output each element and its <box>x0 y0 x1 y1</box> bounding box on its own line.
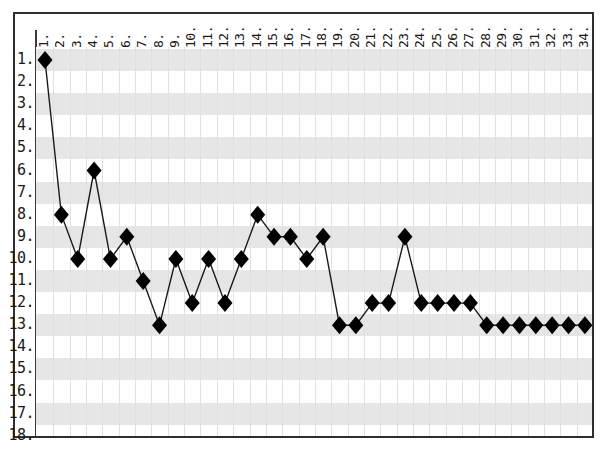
x-tick-label: 8. <box>152 33 165 48</box>
data-point-marker <box>332 316 347 334</box>
data-point-marker <box>381 294 396 312</box>
x-tick-label: 2. <box>53 33 66 48</box>
x-tick-label: 17. <box>299 26 312 48</box>
y-tick-label: 18. <box>0 428 34 443</box>
data-point-marker <box>54 206 69 224</box>
gridline <box>413 47 414 436</box>
x-tick-label: 12. <box>217 26 230 48</box>
gridline <box>86 47 87 436</box>
gridline <box>184 47 185 436</box>
y-tick-label: 10. <box>0 251 34 266</box>
gridline <box>462 47 463 436</box>
data-point-marker <box>545 316 560 334</box>
y-tick-label: 6. <box>0 163 34 178</box>
y-tick-label: 12. <box>0 295 34 310</box>
data-point-marker <box>528 316 543 334</box>
y-tick-label: 16. <box>0 384 34 399</box>
data-point-marker <box>250 206 265 224</box>
background-band <box>36 270 592 292</box>
y-tick-label: 7. <box>0 185 34 200</box>
gridline <box>233 47 234 436</box>
data-point-marker <box>217 294 232 312</box>
gridline <box>380 47 381 436</box>
x-tick-label: 3. <box>70 33 83 48</box>
y-tick-label: 5. <box>0 140 34 155</box>
gridline <box>168 47 169 436</box>
gridline <box>364 47 365 436</box>
data-point-marker <box>168 250 183 268</box>
y-tick-label: 9. <box>0 229 34 244</box>
x-tick-label: 22. <box>381 26 394 48</box>
background-band <box>36 137 592 159</box>
data-point-marker <box>136 272 151 290</box>
data-point-marker <box>152 316 167 334</box>
gridline <box>348 47 349 436</box>
data-point-marker <box>577 316 592 334</box>
x-tick-label: 16. <box>282 26 295 48</box>
data-point-marker <box>479 316 494 334</box>
gridline <box>250 47 251 436</box>
x-tick-label: 15. <box>266 26 279 48</box>
y-tick-label: 15. <box>0 361 34 376</box>
data-point-marker <box>397 228 412 246</box>
x-tick-label: 29. <box>495 26 508 48</box>
y-tick-label: 13. <box>0 317 34 332</box>
data-point-marker <box>496 316 511 334</box>
y-tick-label: 14. <box>0 339 34 354</box>
x-tick-label: 1. <box>37 33 50 48</box>
gridline <box>511 47 512 436</box>
x-tick-label: 25. <box>430 26 443 48</box>
gridline <box>446 47 447 436</box>
data-point-marker <box>70 250 85 268</box>
x-tick-label: 23. <box>397 26 410 48</box>
gridline <box>119 47 120 436</box>
gridline <box>429 47 430 436</box>
background-band <box>36 314 592 336</box>
gridline <box>544 47 545 436</box>
data-point-marker <box>430 294 445 312</box>
x-tick-label: 33. <box>561 26 574 48</box>
data-point-marker <box>201 250 216 268</box>
data-point-marker <box>267 228 282 246</box>
data-point-marker <box>185 294 200 312</box>
gridline <box>282 47 283 436</box>
gridline <box>331 47 332 436</box>
y-tick-label: 8. <box>0 207 34 222</box>
y-tick-label: 2. <box>0 74 34 89</box>
gridline <box>266 47 267 436</box>
gridline <box>299 47 300 436</box>
background-band <box>36 226 592 248</box>
x-tick-label: 9. <box>168 33 181 48</box>
series-line <box>36 47 592 436</box>
gridline <box>151 47 152 436</box>
x-tick-label: 7. <box>135 33 148 48</box>
x-tick-label: 4. <box>86 33 99 48</box>
gridline <box>217 47 218 436</box>
background-band <box>36 93 592 115</box>
y-tick-label: 17. <box>0 406 34 421</box>
x-axis-tick-labels: 1.2.3.4.5.6.7.8.9.10.11.12.13.14.15.16.1… <box>36 12 592 48</box>
x-tick-label: 28. <box>479 26 492 48</box>
background-band <box>36 182 592 204</box>
data-point-marker <box>512 316 527 334</box>
gridline <box>135 47 136 436</box>
data-point-marker <box>119 228 134 246</box>
background-band <box>36 49 592 71</box>
gridline <box>577 47 578 436</box>
y-tick-label: 1. <box>0 52 34 67</box>
data-point-marker <box>316 228 331 246</box>
x-tick-label: 13. <box>233 26 246 48</box>
data-point-marker <box>38 51 53 69</box>
x-tick-label: 32. <box>544 26 557 48</box>
background-bands <box>36 47 592 436</box>
x-tick-label: 24. <box>413 26 426 48</box>
plot-area <box>36 47 592 436</box>
data-point-marker <box>365 294 380 312</box>
gridline <box>397 47 398 436</box>
gridline <box>495 47 496 436</box>
data-point-marker <box>283 228 298 246</box>
x-tick-label: 31. <box>528 26 541 48</box>
x-tick-label: 20. <box>348 26 361 48</box>
data-point-marker <box>87 162 102 180</box>
x-tick-label: 14. <box>250 26 263 48</box>
